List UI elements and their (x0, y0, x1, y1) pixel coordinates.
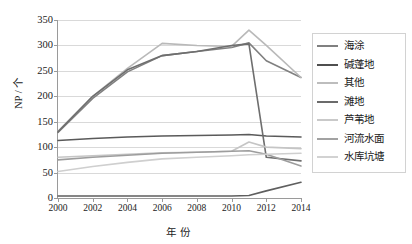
x-tick-label: 2006 (153, 204, 172, 214)
legend-item-label: 海涂 (344, 41, 364, 52)
x-tick-label: 2010 (222, 204, 241, 214)
legend-color-swatch (317, 156, 338, 158)
series-line (58, 44, 301, 161)
legend-item-label: 芦苇地 (344, 115, 374, 126)
series-line (58, 134, 301, 140)
y-tick-label: 300 (37, 40, 53, 51)
legend-item-label: 其他 (344, 78, 364, 89)
legend-item[interactable]: 芦苇地 (317, 111, 405, 130)
legend-color-swatch (317, 119, 338, 121)
legend-item[interactable]: 滩地 (317, 93, 405, 112)
x-tick-label: 2012 (257, 204, 276, 214)
y-tick-label: 100 (37, 142, 53, 153)
y-tick-label: 350 (37, 15, 53, 26)
y-tick-label: 250 (37, 66, 53, 77)
y-tick-label: 150 (37, 116, 53, 127)
legend-color-swatch (317, 64, 338, 66)
line-chart: NP / 个 050100150200250300350 20002002200… (0, 0, 412, 244)
x-tick-label: 2014 (292, 204, 311, 214)
series-line (58, 182, 301, 196)
plot-area: 050100150200250300350 200020022004200620… (57, 20, 301, 199)
legend-item[interactable]: 海涂 (317, 37, 405, 56)
legend-color-swatch (317, 45, 338, 47)
series-line (58, 43, 301, 133)
legend-item-label: 碱蓬地 (344, 60, 374, 71)
legend-item-label: 水库坑塘 (344, 152, 384, 163)
y-tick-label: 0 (48, 193, 53, 204)
x-tick-mark (127, 198, 128, 202)
legend-color-swatch (317, 82, 338, 84)
x-tick-mark (301, 198, 302, 202)
x-tick-label: 2004 (118, 204, 137, 214)
x-tick-label: 2002 (83, 204, 102, 214)
legend-item[interactable]: 碱蓬地 (317, 56, 405, 75)
legend-item[interactable]: 其他 (317, 74, 405, 93)
y-tick-label: 50 (43, 167, 54, 178)
series-lines (58, 20, 301, 198)
x-tick-mark (266, 198, 267, 202)
legend-color-swatch (317, 138, 338, 140)
x-tick-mark (232, 198, 233, 202)
legend-item-label: 滩地 (344, 97, 364, 108)
y-axis-title: NP / 个 (10, 78, 25, 109)
x-tick-mark (93, 198, 94, 202)
x-tick-label: 2000 (49, 204, 68, 214)
x-tick-mark (162, 198, 163, 202)
legend-item-label: 河流水面 (344, 134, 384, 145)
x-tick-mark (58, 198, 59, 202)
legend: 海涂碱蓬地其他滩地芦苇地河流水面水库坑塘 (312, 33, 406, 173)
x-tick-label: 2008 (187, 204, 206, 214)
x-tick-mark (197, 198, 198, 202)
legend-color-swatch (317, 101, 338, 103)
series-line (58, 30, 301, 131)
legend-item[interactable]: 水库坑塘 (317, 148, 405, 167)
legend-item[interactable]: 河流水面 (317, 130, 405, 149)
y-tick-label: 200 (37, 91, 53, 102)
x-axis-title: 年 份 (57, 224, 300, 239)
